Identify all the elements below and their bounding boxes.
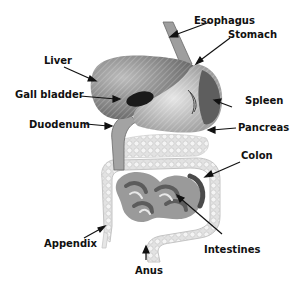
label-appendix: Appendix [44,238,97,250]
label-pancreas: Pancreas [238,122,289,134]
label-esophagus: Esophagus [194,15,255,27]
label-anus: Anus [135,265,163,277]
small-intestines-shape [116,172,203,222]
label-liver: Liver [44,55,72,67]
label-stomach: Stomach [228,29,277,41]
label-gall-bladder: Gall bladder [15,89,84,101]
label-spleen: Spleen [245,95,283,107]
label-colon: Colon [241,150,273,162]
pancreas-shape [117,134,209,158]
appendix-shape [102,232,108,248]
label-intestines: Intestines [204,244,260,256]
label-duodenum: Duodenum [29,119,90,131]
